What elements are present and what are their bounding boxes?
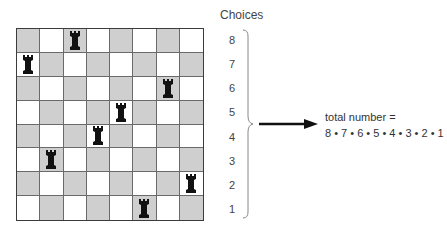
board-square <box>17 101 40 125</box>
total-product: 8 • 7 • 6 • 5 • 4 • 3 • 2 • 1 <box>325 125 444 141</box>
board-square <box>17 77 40 101</box>
board-square <box>157 77 180 101</box>
rook-icon <box>185 174 197 193</box>
board-square <box>110 172 133 196</box>
choice-label: 7 <box>226 58 238 70</box>
board-square <box>157 172 180 196</box>
rook-icon <box>138 199 150 218</box>
board-square <box>87 53 110 77</box>
choice-label: 4 <box>226 131 238 143</box>
board-square <box>157 125 180 149</box>
board-square <box>133 172 156 196</box>
choices-title: Choices <box>220 8 263 22</box>
board-square <box>87 101 110 125</box>
board-square <box>64 125 87 149</box>
board-square <box>133 125 156 149</box>
board-square <box>40 148 63 172</box>
board-square <box>64 77 87 101</box>
board-square <box>87 125 110 149</box>
board-square <box>157 29 180 53</box>
choice-label: 5 <box>226 106 238 118</box>
board-square <box>87 77 110 101</box>
board-square <box>110 53 133 77</box>
board-square <box>110 196 133 220</box>
board-square <box>17 29 40 53</box>
board-square <box>17 148 40 172</box>
rook-icon <box>69 31 81 50</box>
board-square <box>180 53 203 77</box>
board-square <box>157 148 180 172</box>
total-label: total number = <box>325 109 444 125</box>
board-square <box>40 196 63 220</box>
board-square <box>87 196 110 220</box>
board-square <box>64 172 87 196</box>
board-square <box>64 29 87 53</box>
total-formula: total number = 8 • 7 • 6 • 5 • 4 • 3 • 2… <box>325 109 444 141</box>
choice-label: 2 <box>226 179 238 191</box>
board-square <box>40 77 63 101</box>
board-square <box>180 125 203 149</box>
rook-icon <box>162 79 174 98</box>
rook-icon <box>92 126 104 145</box>
board-square <box>110 125 133 149</box>
board-square <box>157 53 180 77</box>
board-square <box>180 148 203 172</box>
board-square <box>110 101 133 125</box>
board-square <box>87 29 110 53</box>
board-square <box>17 125 40 149</box>
board-square <box>110 29 133 53</box>
board-square <box>64 148 87 172</box>
board-square <box>17 196 40 220</box>
board-square <box>17 53 40 77</box>
choice-label: 1 <box>226 203 238 215</box>
board-square <box>180 101 203 125</box>
board-square <box>180 196 203 220</box>
board-square <box>180 77 203 101</box>
board-square <box>157 196 180 220</box>
board-square <box>17 172 40 196</box>
board-square <box>40 29 63 53</box>
board-square <box>133 101 156 125</box>
board-square <box>110 148 133 172</box>
rook-icon <box>45 150 57 169</box>
board-square <box>87 172 110 196</box>
board-square <box>110 77 133 101</box>
curly-brace-icon <box>238 28 258 220</box>
board-square <box>180 29 203 53</box>
choice-label: 3 <box>226 155 238 167</box>
board-square <box>133 196 156 220</box>
board-square <box>40 172 63 196</box>
board-square <box>133 148 156 172</box>
choice-label: 6 <box>226 82 238 94</box>
board-square <box>180 172 203 196</box>
board-square <box>40 53 63 77</box>
choice-label: 8 <box>226 34 238 46</box>
board-square <box>133 29 156 53</box>
board-square <box>40 125 63 149</box>
board-square <box>40 101 63 125</box>
board-square <box>64 196 87 220</box>
board-square <box>133 77 156 101</box>
board-square <box>87 148 110 172</box>
chessboard <box>16 28 204 221</box>
board-square <box>64 53 87 77</box>
rook-icon <box>22 55 34 74</box>
right-arrow-icon <box>258 118 320 130</box>
board-square <box>64 101 87 125</box>
rook-icon <box>115 103 127 122</box>
board-square <box>157 101 180 125</box>
board-square <box>133 53 156 77</box>
